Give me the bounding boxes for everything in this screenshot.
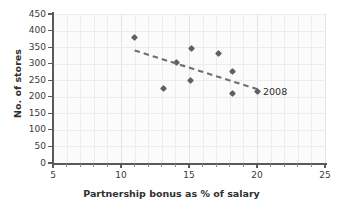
y-tick-label: 50 xyxy=(6,142,46,151)
gridline-vertical xyxy=(216,14,217,163)
x-tick-mark-minor xyxy=(297,164,298,167)
gridline-vertical xyxy=(94,14,95,163)
x-tick-mark-minor xyxy=(93,164,94,167)
y-tick-label: 300 xyxy=(6,59,46,68)
y-tick-label: 450 xyxy=(6,10,46,19)
x-tick-mark-minor xyxy=(216,164,217,167)
gridline-vertical xyxy=(175,14,176,163)
gridline-vertical xyxy=(67,14,68,163)
gridline-horizontal xyxy=(53,14,325,15)
y-tick-mark xyxy=(48,80,52,81)
gridline-vertical xyxy=(189,14,190,163)
x-tick-mark-minor xyxy=(148,164,149,167)
y-tick-mark xyxy=(48,30,52,31)
gridline-vertical xyxy=(311,14,312,163)
gridline-horizontal xyxy=(53,146,325,147)
gridline-vertical xyxy=(148,14,149,163)
x-tick-mark xyxy=(256,164,257,168)
x-tick-label: 15 xyxy=(174,171,204,180)
x-tick-mark-minor xyxy=(270,164,271,167)
gridline-horizontal xyxy=(53,97,325,98)
y-tick-label: 250 xyxy=(6,76,46,85)
y-tick-mark xyxy=(48,63,52,64)
x-axis-title: Partnership bonus as % of salary xyxy=(0,188,343,199)
x-tick-mark xyxy=(120,164,121,168)
x-tick-mark-minor xyxy=(284,164,285,167)
gridline-vertical xyxy=(203,14,204,163)
x-tick-label: 5 xyxy=(38,171,68,180)
x-tick-mark xyxy=(188,164,189,168)
y-tick-mark xyxy=(48,47,52,48)
gridline-vertical xyxy=(298,14,299,163)
x-tick-mark-minor xyxy=(175,164,176,167)
y-tick-mark xyxy=(48,162,52,163)
x-tick-mark-minor xyxy=(134,164,135,167)
x-tick-mark-minor xyxy=(107,164,108,167)
gridline-vertical xyxy=(325,14,326,163)
data-point xyxy=(131,34,138,41)
gridline-vertical xyxy=(80,14,81,163)
data-point xyxy=(253,88,260,95)
y-tick-mark xyxy=(48,129,52,130)
data-point-annotation: 2008 xyxy=(263,87,287,97)
x-tick-label: 20 xyxy=(242,171,272,180)
x-tick-label: 10 xyxy=(106,171,136,180)
y-tick-label: 400 xyxy=(6,26,46,35)
y-tick-label: 100 xyxy=(6,125,46,134)
gridline-horizontal xyxy=(53,130,325,131)
scatter-chart: No. of stores Partnership bonus as % of … xyxy=(0,0,343,210)
gridline-horizontal xyxy=(53,31,325,32)
gridline-vertical xyxy=(107,14,108,163)
y-tick-mark xyxy=(48,113,52,114)
data-point xyxy=(187,77,194,84)
x-tick-mark-minor xyxy=(66,164,67,167)
y-axis-line xyxy=(52,12,54,165)
x-tick-mark-minor xyxy=(311,164,312,167)
y-tick-label: 150 xyxy=(6,109,46,118)
y-tick-mark xyxy=(48,13,52,14)
x-tick-mark xyxy=(324,164,325,168)
y-tick-mark xyxy=(48,146,52,147)
gridline-vertical xyxy=(243,14,244,163)
data-point xyxy=(160,85,167,92)
x-tick-label: 25 xyxy=(310,171,340,180)
y-tick-label: 0 xyxy=(6,159,46,168)
x-tick-mark-minor xyxy=(202,164,203,167)
x-tick-mark-minor xyxy=(229,164,230,167)
y-tick-label: 350 xyxy=(6,43,46,52)
gridline-horizontal xyxy=(53,113,325,114)
y-tick-mark xyxy=(48,96,52,97)
x-tick-mark-minor xyxy=(243,164,244,167)
y-tick-label: 200 xyxy=(6,92,46,101)
gridline-vertical xyxy=(230,14,231,163)
gridline-horizontal xyxy=(53,64,325,65)
x-tick-mark xyxy=(52,164,53,168)
x-tick-mark-minor xyxy=(80,164,81,167)
gridline-vertical xyxy=(121,14,122,163)
x-tick-mark-minor xyxy=(161,164,162,167)
